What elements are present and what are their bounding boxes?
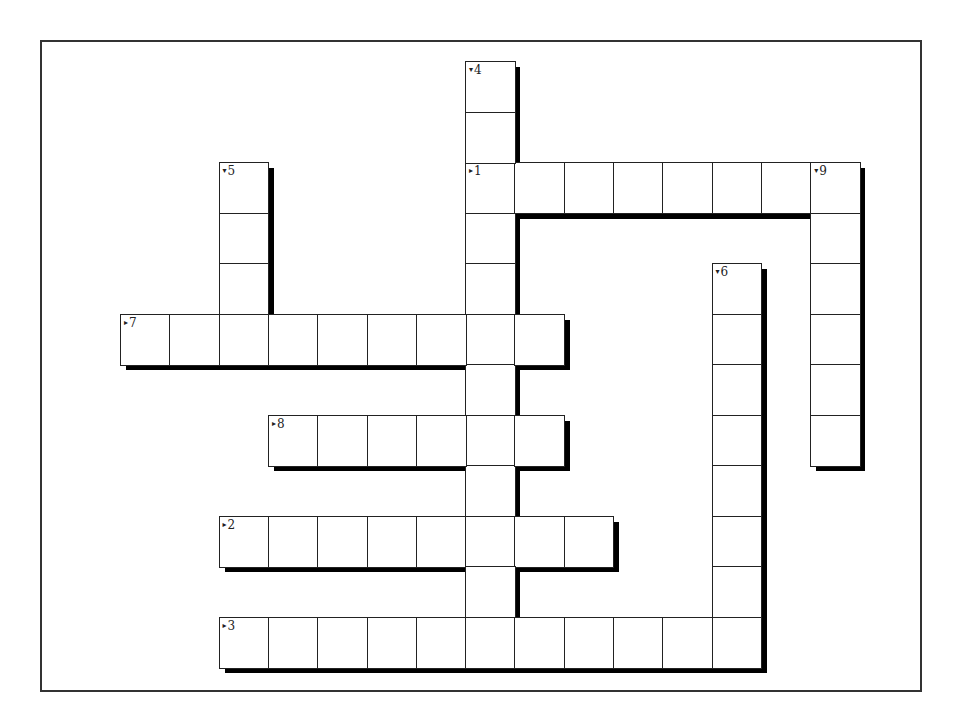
grid-cell[interactable] (416, 617, 467, 669)
grid-cell[interactable] (416, 516, 467, 568)
grid-cell[interactable] (416, 314, 467, 366)
grid-cell[interactable] (465, 617, 516, 669)
grid-cell[interactable] (712, 415, 763, 467)
clue-number-label: 1 (474, 164, 482, 178)
grid-cell[interactable] (317, 314, 368, 366)
grid-cell[interactable] (712, 566, 763, 618)
grid-cell[interactable] (514, 516, 565, 568)
grid-cell[interactable] (465, 465, 516, 517)
arrow-down-icon: ▾ (814, 166, 818, 175)
grid-cell[interactable]: ▾9 (810, 162, 861, 214)
clue-number-5-down: ▾5 (223, 165, 236, 177)
clue-number-7-across: ▸7 (124, 317, 137, 329)
grid-cell[interactable]: ▾5 (219, 162, 270, 214)
grid-cell[interactable] (810, 364, 861, 416)
arrow-right-icon: ▸ (223, 621, 227, 630)
clue-number-label: 8 (277, 417, 285, 431)
grid-cell[interactable] (712, 465, 763, 517)
grid-cell[interactable] (268, 617, 319, 669)
grid-cell[interactable] (465, 364, 516, 416)
grid-cell[interactable] (712, 617, 763, 669)
clue-number-9-down: ▾9 (814, 165, 827, 177)
grid-cell[interactable]: ▸2 (219, 516, 270, 568)
arrow-right-icon: ▸ (272, 419, 276, 428)
clue-number-1-across: ▸1 (469, 165, 482, 177)
grid-cell[interactable]: ▸7 (120, 314, 171, 366)
grid-cell[interactable] (169, 314, 220, 366)
grid-cell[interactable] (810, 213, 861, 265)
grid-cell[interactable] (761, 162, 812, 214)
clue-number-label: 5 (228, 164, 236, 178)
grid-cell[interactable] (465, 314, 516, 366)
grid-cell[interactable] (712, 364, 763, 416)
arrow-down-icon: ▾ (469, 65, 473, 74)
clue-number-6-down: ▾6 (716, 266, 729, 278)
grid-cell[interactable] (613, 162, 664, 214)
grid-cell[interactable] (810, 263, 861, 315)
grid-cell[interactable] (712, 516, 763, 568)
grid-cell[interactable]: ▸3 (219, 617, 270, 669)
grid-cell[interactable] (465, 516, 516, 568)
grid-cell[interactable] (810, 415, 861, 467)
arrow-right-icon: ▸ (124, 318, 128, 327)
grid-cell[interactable]: ▸8 (268, 415, 319, 467)
grid-cell[interactable] (416, 415, 467, 467)
grid-cell[interactable] (317, 516, 368, 568)
clue-number-label: 9 (819, 164, 827, 178)
grid-cell[interactable] (514, 415, 565, 467)
grid-cell[interactable] (268, 314, 319, 366)
grid-cell[interactable] (219, 263, 270, 315)
clue-number-label: 7 (129, 316, 137, 330)
grid-cell[interactable] (810, 314, 861, 366)
grid-cell[interactable] (367, 314, 418, 366)
grid-cell[interactable] (662, 162, 713, 214)
grid-cell[interactable] (712, 314, 763, 366)
clue-number-2-across: ▸2 (223, 519, 236, 531)
grid-cell[interactable] (564, 617, 615, 669)
clue-number-label: 3 (228, 619, 236, 633)
grid-cell[interactable] (219, 314, 270, 366)
grid-cell[interactable] (367, 415, 418, 467)
grid-cell[interactable] (465, 213, 516, 265)
grid-cell[interactable] (317, 415, 368, 467)
clue-number-label: 6 (721, 265, 729, 279)
clue-number-3-across: ▸3 (223, 620, 236, 632)
grid-cell[interactable] (465, 415, 516, 467)
arrow-right-icon: ▸ (223, 520, 227, 529)
grid-cell[interactable] (465, 566, 516, 618)
grid-cell[interactable] (712, 162, 763, 214)
grid-cell[interactable] (465, 112, 516, 164)
arrow-right-icon: ▸ (469, 166, 473, 175)
grid-cell[interactable] (514, 617, 565, 669)
grid-cell[interactable] (317, 617, 368, 669)
clue-number-8-across: ▸8 (272, 418, 285, 430)
grid-cell[interactable]: ▾4 (465, 61, 516, 113)
crossword-grid: ▸1▾9▸2▸3▾4▾5▾6▸7▸8 (0, 0, 958, 720)
grid-cell[interactable] (514, 162, 565, 214)
clue-number-label: 4 (474, 63, 482, 77)
grid-cell[interactable] (564, 516, 615, 568)
clue-number-4-down: ▾4 (469, 64, 482, 76)
grid-cell[interactable] (367, 617, 418, 669)
clue-number-label: 2 (228, 518, 236, 532)
grid-cell[interactable] (514, 314, 565, 366)
grid-cell[interactable] (564, 162, 615, 214)
grid-cell[interactable] (367, 516, 418, 568)
arrow-down-icon: ▾ (223, 166, 227, 175)
grid-cell[interactable]: ▸1 (465, 162, 516, 214)
grid-cell[interactable] (219, 213, 270, 265)
grid-cell[interactable]: ▾6 (712, 263, 763, 315)
grid-cell[interactable] (465, 263, 516, 315)
arrow-down-icon: ▾ (716, 267, 720, 276)
grid-cell[interactable] (268, 516, 319, 568)
grid-cell[interactable] (613, 617, 664, 669)
grid-cell[interactable] (662, 617, 713, 669)
